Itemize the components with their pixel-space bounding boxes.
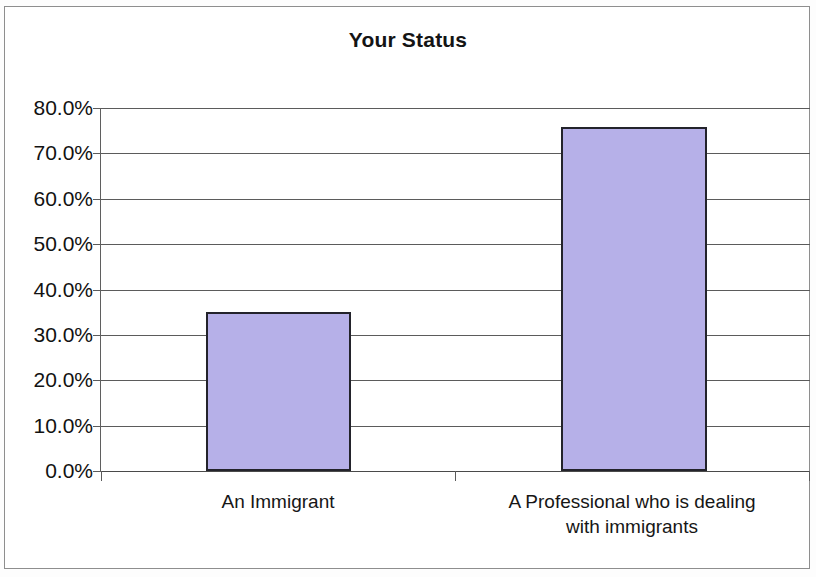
y-axis-tick-label: 10.0%	[0, 415, 93, 436]
chart-title: Your Status	[0, 28, 816, 52]
category-axis-left-tick	[101, 471, 102, 481]
x-axis-label-an-immigrant: An Immigrant	[130, 489, 426, 514]
y-axis-tick-label: 0.0%	[0, 460, 93, 481]
category-axis-separator-tick	[455, 471, 456, 481]
bar	[561, 127, 707, 471]
x-axis-label-line: A Professional who is dealing	[462, 489, 802, 514]
x-axis-label-line: with immigrants	[462, 514, 802, 539]
chart-page: Your Status 80.0%70.0%60.0%50.0%40.0%30.…	[0, 0, 816, 577]
y-axis-tick-label: 60.0%	[0, 188, 93, 209]
y-axis-tick-label: 80.0%	[0, 97, 93, 118]
y-axis-tick-label: 50.0%	[0, 233, 93, 254]
gridline	[101, 108, 810, 109]
y-axis-tick-label: 30.0%	[0, 324, 93, 345]
bar	[206, 312, 351, 471]
y-axis-tick-label: 20.0%	[0, 369, 93, 390]
y-axis-tick-label: 70.0%	[0, 142, 93, 163]
plot-area	[101, 108, 810, 471]
x-axis-label-a-professional: A Professional who is dealingwith immigr…	[462, 489, 802, 539]
y-axis-tick-label: 40.0%	[0, 279, 93, 300]
category-axis-right-tick	[809, 471, 810, 481]
x-axis-label-line: An Immigrant	[130, 489, 426, 514]
